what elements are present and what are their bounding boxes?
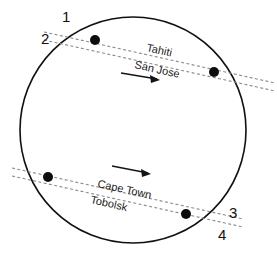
crossing-label-2: 2 bbox=[41, 30, 49, 47]
upper-right-satellite bbox=[209, 67, 219, 77]
upper-track bbox=[44, 32, 275, 91]
crossing-label-1: 1 bbox=[62, 8, 70, 25]
globe-outline bbox=[20, 17, 246, 243]
ground-track-diagram: Tahiti San Jose Cape Town Tobolsk 1 2 3 … bbox=[0, 0, 277, 256]
crossing-label-3: 3 bbox=[229, 204, 237, 221]
lower-left-satellite bbox=[43, 172, 53, 182]
lower-direction-arrow bbox=[112, 166, 151, 177]
upper-track-label-tahiti: Tahiti bbox=[146, 41, 174, 58]
lower-track-label-tobolsk: Tobolsk bbox=[90, 193, 129, 213]
crossing-label-4: 4 bbox=[218, 226, 226, 243]
upper-left-satellite bbox=[90, 35, 100, 45]
lower-right-satellite bbox=[181, 209, 191, 219]
